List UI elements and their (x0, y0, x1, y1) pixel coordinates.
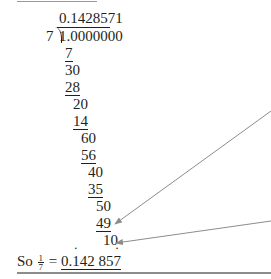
bottom-rule (17, 272, 271, 274)
annotation-arrows (0, 0, 271, 279)
arrow-to-result (116, 221, 271, 243)
arrow-to-49 (115, 111, 271, 224)
